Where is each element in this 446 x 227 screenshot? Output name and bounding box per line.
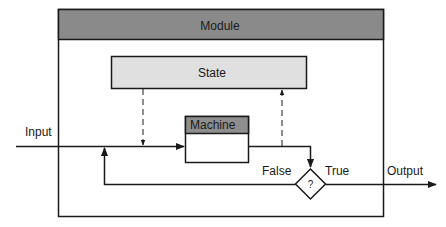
module-title: Module — [200, 19, 240, 33]
true-label: True — [325, 164, 350, 178]
false-label: False — [262, 164, 292, 178]
state-node: State — [112, 57, 307, 89]
decision-symbol: ? — [308, 179, 314, 190]
state-label: State — [198, 66, 226, 80]
machine-label: Machine — [190, 118, 236, 132]
module-border — [59, 10, 384, 217]
machine-node: Machine — [186, 117, 249, 163]
input-label: Input — [25, 125, 52, 139]
output-label: Output — [387, 164, 424, 178]
diagram-canvas: Module State Input Machine ? False True … — [0, 0, 446, 227]
module-container: Module — [59, 10, 384, 217]
